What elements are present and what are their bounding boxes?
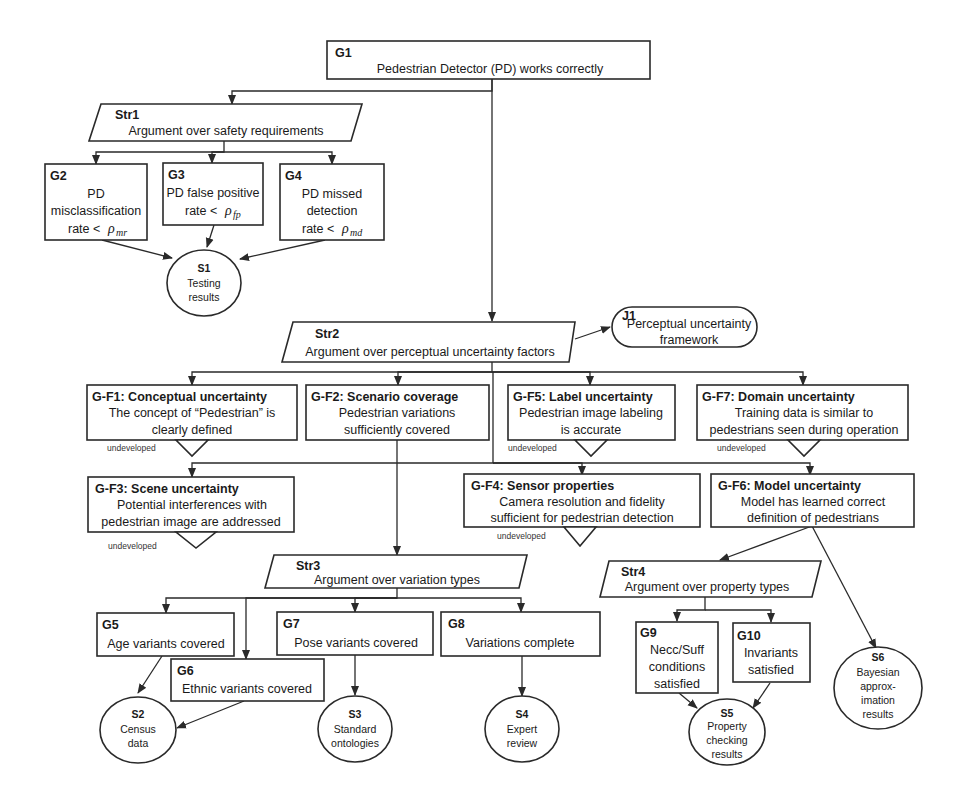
math-subscript: fp: [233, 209, 241, 220]
goal-id: G7: [283, 617, 300, 631]
solution-s6[interactable]: S6 Bayesian approx- imation results: [834, 647, 922, 729]
math-subscript: md: [350, 227, 363, 238]
undeveloped-diamond-icon: [788, 440, 820, 456]
goal-text: Necc/Suff: [650, 643, 704, 657]
edge-g10-s5: [753, 683, 770, 708]
edge-str1-g4: [224, 152, 332, 164]
justification-j1[interactable]: J1 Perceptual uncertainty framework: [612, 307, 757, 347]
strategy-text: Argument over perceptual uncertainty fac…: [305, 345, 554, 359]
edge-g4-s1: [240, 240, 325, 259]
goal-g1[interactable]: G1 Pedestrian Detector (PD) works correc…: [327, 41, 650, 79]
solution-id: S5: [721, 707, 734, 719]
solution-s4[interactable]: S4 Expert review: [485, 696, 559, 762]
edge-g1-str1: [232, 79, 492, 104]
goal-gf1[interactable]: G-F1: Conceptual uncertainty The concept…: [87, 385, 297, 456]
edge-str3-g5: [166, 588, 397, 613]
goal-g6[interactable]: G6 Ethnic variants covered: [171, 659, 324, 701]
solution-text: results: [189, 291, 220, 303]
goal-gf7[interactable]: G-F7: Domain uncertainty Training data i…: [697, 385, 908, 456]
goal-g9[interactable]: G9 Necc/Suff conditions satisfied: [636, 622, 718, 693]
goal-text: sufficient for pedestrian detection: [490, 511, 673, 525]
undeveloped-diamond-icon: [575, 440, 607, 456]
goal-text: Pedestrian image labeling: [519, 406, 663, 420]
undeveloped-diamond-icon: [176, 532, 216, 548]
undeveloped-diamond-icon: [564, 527, 596, 546]
goal-id: G-F4: Sensor properties: [471, 479, 614, 493]
solution-text: checking: [706, 734, 748, 746]
solution-text: data: [128, 737, 149, 749]
edge-str2-gf1: [192, 362, 492, 385]
strategy-id: Str3: [296, 559, 320, 573]
goal-text: satisfied: [748, 663, 794, 677]
edge-str2-gf5: [492, 372, 590, 385]
solution-s3[interactable]: S3 Standard ontologies: [318, 696, 392, 762]
goal-gf4[interactable]: G-F4: Sensor properties Camera resolutio…: [464, 474, 700, 546]
goal-id: G-F7: Domain uncertainty: [702, 390, 855, 404]
edge-g9-s5: [679, 693, 697, 708]
goal-g5[interactable]: G5 Age variants covered: [97, 613, 234, 656]
strategy-str2[interactable]: Str2 Argument over perceptual uncertaint…: [282, 322, 575, 362]
edge-str4-g9: [677, 597, 705, 621]
goal-id: G-F2: Scenario coverage: [311, 390, 458, 404]
strategy-str3[interactable]: Str3 Argument over variation types: [265, 555, 527, 588]
goal-text: Training data is similar to: [735, 406, 874, 420]
goal-g7[interactable]: G7 Pose variants covered: [277, 612, 433, 655]
goal-gf5[interactable]: G-F5: Label uncertainty Pedestrian image…: [508, 385, 675, 456]
edge-str4-g10: [705, 610, 771, 622]
solution-id: S3: [349, 708, 362, 720]
strategy-str1[interactable]: Str1 Argument over safety requirements: [89, 104, 362, 141]
goal-g10[interactable]: G10 Invariants satisfied: [733, 623, 810, 682]
goal-id: G-F5: Label uncertainty: [513, 390, 653, 404]
goal-gf6[interactable]: G-F6: Model uncertainty Model has learne…: [711, 474, 914, 527]
goal-text: Variations complete: [466, 636, 575, 650]
solution-text: review: [507, 737, 538, 749]
goal-text: pedestrians seen during operation: [709, 423, 898, 437]
solution-text: Census: [120, 723, 156, 735]
goal-text: conditions: [649, 660, 705, 674]
goal-g8[interactable]: G8 Variations complete: [441, 612, 600, 656]
edge-str2-gf7: [492, 372, 803, 385]
strategy-text: Argument over safety requirements: [128, 124, 323, 138]
strategy-id: Str1: [115, 108, 139, 122]
goal-text: clearly defined: [152, 423, 233, 437]
goal-text: misclassification: [51, 204, 141, 218]
goal-text: Potential interferences with: [117, 498, 267, 512]
undeveloped-label: undeveloped: [717, 443, 766, 453]
goal-gf3[interactable]: G-F3: Scene uncertainty Potential interf…: [88, 477, 294, 551]
math-subscript: mr: [116, 227, 127, 238]
solution-text: approx-: [860, 680, 896, 692]
goal-text: definition of pedestrians: [747, 511, 879, 525]
goal-text: Pedestrian variations: [339, 406, 456, 420]
goal-text: PD false positive: [166, 186, 259, 200]
goal-id: G-F1: Conceptual uncertainty: [92, 390, 267, 404]
edge-g5-s2: [138, 656, 162, 693]
strategy-str4[interactable]: Str4 Argument over property types: [600, 561, 821, 597]
goal-g3[interactable]: G3 PD false positive rate < ρ fp: [163, 163, 263, 225]
strategy-text: Argument over property types: [625, 580, 790, 594]
goal-id: G5: [102, 618, 119, 632]
goal-id: G1: [335, 46, 352, 60]
gsn-diagram: G1 Pedestrian Detector (PD) works correc…: [0, 0, 965, 807]
goal-id: G8: [448, 617, 465, 631]
goal-text: Ethnic variants covered: [182, 682, 312, 696]
math-rho: ρ: [341, 221, 349, 236]
goal-text: satisfied: [654, 677, 700, 691]
goal-g2[interactable]: G2 PD misclassification rate < ρ mr: [45, 164, 147, 240]
edge-gf6-str4: [720, 526, 812, 560]
goal-id: G6: [177, 664, 194, 678]
edge-gf6-s6: [812, 526, 876, 648]
goal-text: The concept of “Pedestrian” is: [109, 406, 276, 420]
goal-text: is accurate: [561, 423, 621, 437]
solution-id: S1: [198, 262, 211, 274]
edge-g6-s2: [177, 701, 244, 728]
goal-text: detection: [307, 204, 358, 218]
solution-s5[interactable]: S5 Property checking results: [689, 699, 765, 765]
goal-g4[interactable]: G4 PD missed detection rate < ρ md: [280, 164, 384, 240]
goal-text: PD: [87, 187, 104, 201]
goal-gf2[interactable]: G-F2: Scenario coverage Pedestrian varia…: [306, 385, 489, 440]
edge-str1-g3: [212, 152, 224, 163]
solution-s2[interactable]: S2 Census data: [100, 697, 176, 763]
solution-s1[interactable]: S1 Testing results: [167, 250, 241, 316]
goal-text: rate <: [68, 222, 100, 236]
solution-text: Bayesian: [856, 666, 899, 678]
